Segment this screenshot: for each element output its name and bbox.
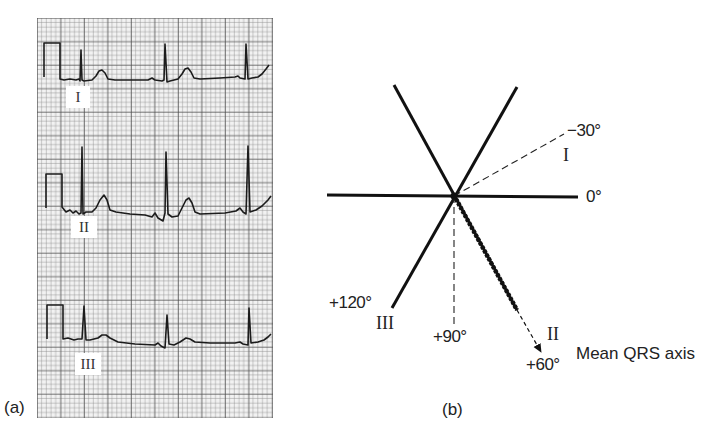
lead-i-label: I [66, 86, 90, 108]
lead-iii-label: III [75, 353, 101, 375]
angle-label-plus60: +60° [526, 355, 560, 375]
lead-ii-label: II [71, 216, 97, 238]
mean-qrs-axis-caption: Mean QRS axis [576, 344, 695, 364]
panel-a-label: (a) [4, 398, 25, 418]
axis-origin [451, 193, 458, 200]
lead-ii-roman-label: II [547, 324, 559, 345]
angle-label-plus120: +120° [329, 293, 372, 313]
lead-iii-roman-label: III [376, 313, 394, 334]
lead-i-roman-label: I [563, 145, 569, 166]
angle-label-zero: 0° [586, 187, 601, 207]
mean-qrs-emphasis [456, 199, 517, 310]
figure-canvas [0, 0, 714, 437]
panel-b-label: (b) [442, 400, 463, 420]
mean-qrs-axis-arrow [517, 310, 541, 352]
minus30-dashed-line [454, 134, 564, 196]
angle-label-plus90: +90° [433, 327, 467, 347]
angle-label-minus30: −30° [567, 121, 601, 141]
